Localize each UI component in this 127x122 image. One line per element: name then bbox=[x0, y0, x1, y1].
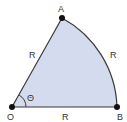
label-o: O bbox=[7, 112, 14, 122]
label-r-arc: R bbox=[110, 50, 117, 60]
label-theta: Θ bbox=[27, 93, 34, 103]
point-b bbox=[114, 104, 120, 110]
label-b: B bbox=[117, 112, 123, 122]
label-r-oa: R bbox=[29, 50, 36, 60]
point-o bbox=[9, 104, 15, 110]
label-r-ob: R bbox=[62, 112, 69, 122]
sector-diagram: A O B R R R Θ bbox=[0, 0, 127, 122]
label-a: A bbox=[58, 4, 64, 14]
point-a bbox=[59, 15, 65, 21]
